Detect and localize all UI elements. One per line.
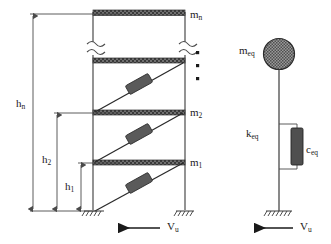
break-symbol-right-lower — [179, 50, 197, 55]
slab-roof-mn — [93, 10, 185, 16]
sdof-mass-circle — [264, 39, 295, 70]
mdof-base-shear-label: Vu — [167, 221, 179, 232]
dimension-label-h1: h1 — [65, 181, 74, 192]
brace-middle — [95, 113, 183, 162]
break-symbol-right-upper — [179, 42, 197, 47]
sdof-damper — [291, 128, 303, 165]
brace-damper-lower — [125, 172, 153, 193]
slab-upper — [93, 58, 185, 63]
engineering-diagram — [0, 0, 331, 244]
mdof-frame — [30, 10, 199, 228]
continuation-dots — [196, 51, 199, 80]
brace-lower — [95, 163, 183, 211]
sdof-mass-label: meq — [239, 45, 255, 56]
floor-label-m2: m2 — [190, 107, 202, 118]
break-symbol-left-lower — [87, 50, 105, 55]
break-symbols — [87, 42, 197, 55]
figure-canvas: mn m2 m1 hn h2 h1 Vu meq keq ceq Vu — [0, 0, 331, 244]
brace-damper-upper — [125, 73, 153, 94]
floor-label-mn: mn — [190, 9, 202, 20]
slab-m2 — [93, 110, 185, 115]
sdof-stiffness-label: keq — [246, 128, 259, 139]
sdof-damper-label: ceq — [306, 144, 318, 155]
brace-damper-middle — [125, 123, 153, 144]
frame-base-supports — [82, 211, 194, 216]
sdof-base-shear-label: Vu — [300, 221, 312, 232]
dimension-label-h2: h2 — [42, 154, 51, 165]
sdof-system — [254, 39, 303, 229]
sdof-base-support — [264, 211, 292, 216]
dimension-label-hn: hn — [16, 98, 25, 109]
brace-assemblies — [95, 63, 183, 211]
break-symbol-left-upper — [87, 42, 105, 47]
slab-m1 — [93, 160, 185, 165]
brace-upper — [95, 63, 183, 112]
floor-label-m1: m1 — [190, 157, 202, 168]
